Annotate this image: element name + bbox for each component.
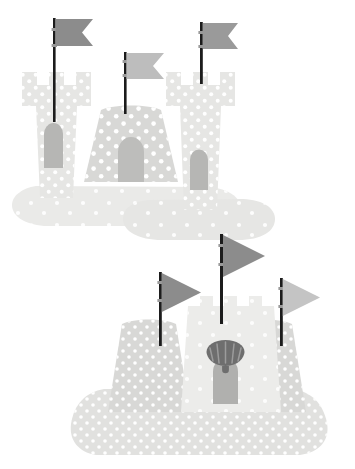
flag-top-left-pole (53, 18, 56, 122)
center-mound-door (118, 137, 144, 182)
left-tower-door (44, 123, 63, 168)
flag-bottom-center-pole (220, 234, 223, 324)
sandcastles-illustration (0, 0, 355, 469)
illustration-canvas: Sandcastles two sand castles with flags (0, 0, 355, 469)
right-tower-door (190, 150, 208, 191)
